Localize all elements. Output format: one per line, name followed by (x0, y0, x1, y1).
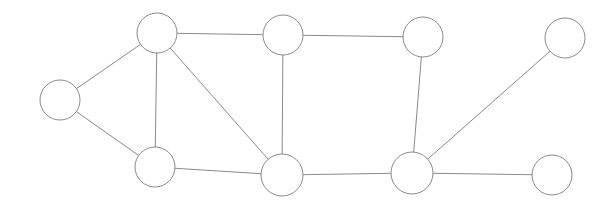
graph-node[interactable] (403, 17, 443, 57)
graph-edge (414, 57, 422, 152)
graph-node[interactable] (135, 147, 175, 187)
graph-edge (76, 44, 140, 88)
graph-edge (433, 173, 532, 174)
graph-node[interactable] (391, 152, 433, 194)
graph-node[interactable] (40, 80, 80, 120)
graph-node[interactable] (532, 155, 572, 195)
graph-node[interactable] (263, 15, 303, 55)
graph-canvas (0, 0, 614, 210)
graph-edge (303, 35, 403, 36)
graph-edge (155, 53, 156, 147)
graph-edge (282, 55, 283, 154)
graph-node[interactable] (261, 154, 303, 196)
graph-edge (177, 33, 263, 34)
node-layer (40, 13, 585, 196)
graph-edge (170, 48, 268, 159)
graph-edge (175, 168, 261, 173)
graph-edge (428, 51, 550, 159)
graph-node[interactable] (545, 18, 585, 58)
graph-edge (76, 112, 138, 156)
graph-diagram (0, 0, 614, 210)
graph-node[interactable] (137, 13, 177, 53)
graph-edge (303, 173, 391, 174)
